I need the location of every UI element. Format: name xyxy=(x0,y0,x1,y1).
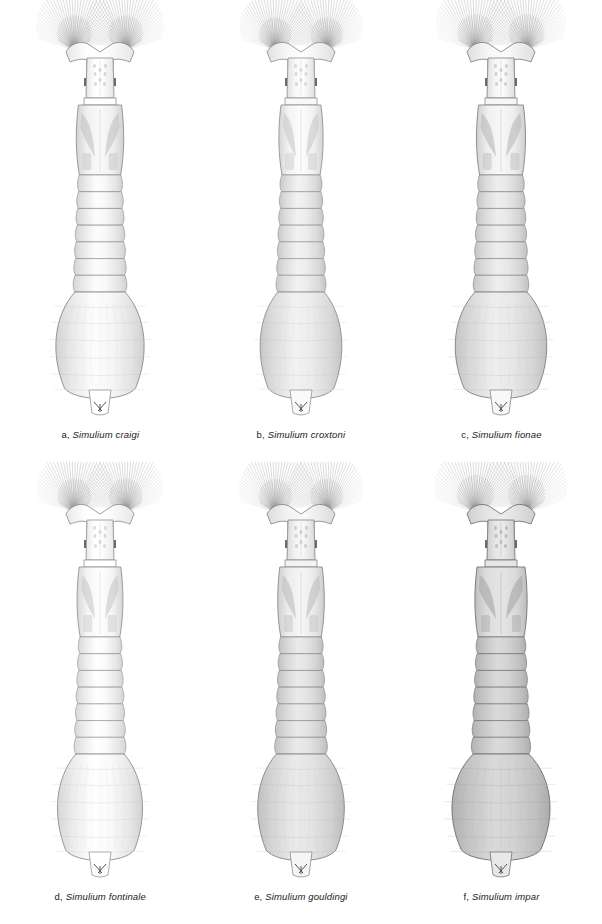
caption-letter: f, xyxy=(464,891,470,902)
caption-species-name: Simulium impar xyxy=(472,891,540,902)
larva-illustration-a xyxy=(0,0,200,425)
specimen-row-bottom: d, Simulium fontinalee, Simulium gouldin… xyxy=(0,462,602,924)
specimen-caption-e: e, Simulium gouldingi xyxy=(201,891,402,902)
specimen-caption-f: f, Simulium impar xyxy=(401,891,602,902)
specimen-cell-f: f, Simulium impar xyxy=(401,462,602,924)
caption-letter: a, xyxy=(61,429,69,440)
caption-letter: d, xyxy=(55,891,63,902)
caption-species-name: Simulium croxtoni xyxy=(268,429,346,440)
specimen-cell-e: e, Simulium gouldingi xyxy=(201,462,402,924)
caption-letter: c, xyxy=(461,429,469,440)
specimen-cell-c: c, Simulium fionae xyxy=(401,0,602,462)
specimen-caption-b: b, Simulium croxtoni xyxy=(201,429,402,440)
caption-species-name: Simulium gouldingi xyxy=(265,891,347,902)
caption-letter: b, xyxy=(257,429,265,440)
specimen-cell-a: a, Simulium craigi xyxy=(0,0,201,462)
figure-plate: a, Simulium craigib, Simulium croxtonic,… xyxy=(0,0,602,924)
specimen-caption-d: d, Simulium fontinale xyxy=(0,891,201,902)
specimen-row-top: a, Simulium craigib, Simulium croxtonic,… xyxy=(0,0,602,462)
specimen-cell-d: d, Simulium fontinale xyxy=(0,462,201,924)
larva-illustration-f xyxy=(401,462,601,887)
larva-illustration-d xyxy=(0,462,200,887)
caption-letter: e, xyxy=(254,891,262,902)
specimen-caption-c: c, Simulium fionae xyxy=(401,429,602,440)
specimen-caption-a: a, Simulium craigi xyxy=(0,429,201,440)
larva-illustration-c xyxy=(401,0,601,425)
larva-illustration-b xyxy=(201,0,401,425)
caption-species-name: Simulium fontinale xyxy=(66,891,146,902)
caption-species-name: Simulium fionae xyxy=(472,429,542,440)
caption-species-name: Simulium craigi xyxy=(72,429,139,440)
larva-illustration-e xyxy=(201,462,401,887)
specimen-cell-b: b, Simulium croxtoni xyxy=(201,0,402,462)
